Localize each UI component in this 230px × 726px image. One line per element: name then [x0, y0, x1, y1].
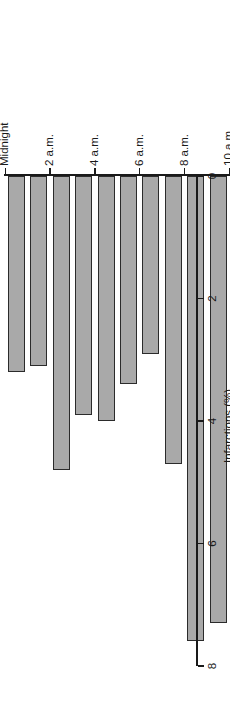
bar-chart-figure: Midnight2 a.m.4 a.m.6 a.m.8 a.m.10 a.m.N… [0, 0, 230, 726]
category-tick [94, 169, 96, 175]
value-axis-title: Infarctions (%) [223, 389, 230, 463]
category-tick-label: 8 a.m. [179, 134, 191, 166]
category-tick [49, 169, 51, 175]
plot-area: Midnight2 a.m.4 a.m.6 a.m.8 a.m.10 a.m.N… [0, 0, 230, 726]
category-tick [184, 169, 186, 175]
category-tick-label: 2 a.m. [44, 134, 56, 166]
category-tick-label: Midnight [0, 123, 11, 166]
rotated-figure-wrapper: Midnight2 a.m.4 a.m.6 a.m.8 a.m.10 a.m.N… [0, 0, 230, 726]
value-tick [198, 175, 204, 177]
category-tick-label: 10 a.m. [223, 128, 230, 166]
value-tick [198, 543, 204, 545]
bar-2-a-m- [53, 176, 70, 470]
value-tick-label: 2 [207, 279, 219, 319]
bar-4-a-m- [98, 176, 115, 421]
bar-1-a-m- [30, 176, 47, 366]
value-tick [198, 420, 204, 422]
value-tick-label: 8 [207, 646, 219, 686]
bar-5-a-m- [120, 176, 137, 384]
value-tick-label: 4 [207, 401, 219, 441]
bar-6-a-m- [142, 176, 159, 354]
category-tick-label: 6 a.m. [134, 134, 146, 166]
value-tick-label: 0 [207, 156, 219, 196]
category-tick [139, 169, 141, 175]
category-tick-label: 4 a.m. [89, 134, 101, 166]
category-tick [5, 169, 7, 175]
bar-midnight [8, 176, 25, 372]
bar-7-a-m- [165, 176, 182, 464]
value-tick-label: 6 [207, 524, 219, 564]
category-tick [229, 169, 230, 175]
value-tick [198, 298, 204, 300]
bar-3-a-m- [75, 176, 92, 415]
value-tick [198, 665, 204, 667]
